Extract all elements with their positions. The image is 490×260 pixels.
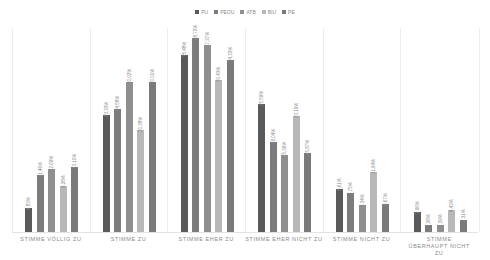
bar-pe <box>382 204 389 232</box>
data-label: 11,46% <box>38 162 43 177</box>
data-label: 2,31% <box>461 210 466 223</box>
legend-item-biu: BIU <box>262 9 276 15</box>
data-label: 4,43% <box>449 199 454 212</box>
bar-group: 23,33%24,58%30,02%20,38%30,01% <box>90 28 169 232</box>
legend-label: BIU <box>268 9 276 15</box>
bar-group: 3,96%1,38%1,39%4,43%2,31% <box>400 28 480 232</box>
data-label: 8,61% <box>337 178 342 191</box>
data-label: 35,48% <box>182 41 187 56</box>
data-label: 7,75% <box>348 182 353 195</box>
legend-label: ATB <box>246 9 255 15</box>
data-label: 13,10% <box>72 153 77 168</box>
data-label: 23,33% <box>104 102 109 117</box>
bar-biu <box>215 80 222 232</box>
bar-pu <box>103 115 110 232</box>
bar-atb <box>48 169 55 232</box>
bar-pe <box>227 60 234 232</box>
legend-item-peou: PEOU <box>214 9 234 15</box>
data-label: 18,04% <box>271 129 276 144</box>
legend-swatch <box>195 10 199 14</box>
data-label: 11,94% <box>371 159 376 174</box>
category-label: STIMME EHER ZU <box>167 236 245 243</box>
data-label: 15,87% <box>305 139 310 154</box>
bar-peou <box>347 193 354 232</box>
bar-pu <box>258 104 265 232</box>
data-label: 5,34% <box>360 195 365 208</box>
bar-atb <box>126 82 133 232</box>
bar-peou <box>192 38 199 232</box>
bar-atb <box>281 155 288 232</box>
bar-biu <box>293 116 300 232</box>
data-label: 5,67% <box>383 193 388 206</box>
legend-item-atb: ATB <box>240 9 255 15</box>
data-label: 20,38% <box>138 117 143 132</box>
data-label: 30,01% <box>150 69 155 84</box>
bar-biu <box>448 210 455 232</box>
bar-peou <box>37 175 44 232</box>
category-label: STIMME VÖLLIG ZU <box>12 236 90 243</box>
category-label: STIMME ZU <box>90 236 168 243</box>
bar-pu <box>414 212 421 232</box>
bar-pe <box>460 220 467 232</box>
bar-atb <box>359 205 366 232</box>
bar-group: 8,61%7,75%5,34%11,94%5,67% <box>323 28 402 232</box>
bar-pu <box>336 189 343 232</box>
bar-biu <box>60 186 67 232</box>
bar-group: 35,48%38,72%37,37%30,43%34,33% <box>167 28 246 232</box>
legend-label: PE <box>288 9 295 15</box>
bar-pu <box>25 208 32 232</box>
data-label: 1,39% <box>438 214 443 227</box>
bar-pe <box>149 82 156 232</box>
bar-group: 25,59%18,04%15,36%23,19%15,87% <box>245 28 324 232</box>
data-label: 15,36% <box>282 142 287 157</box>
bar-biu <box>370 172 377 232</box>
legend-swatch <box>214 10 218 14</box>
data-label: 1,38% <box>426 214 431 227</box>
bar-pe <box>71 167 78 233</box>
legend-swatch <box>282 10 286 14</box>
data-label: 30,43% <box>216 67 221 82</box>
data-label: 3,96% <box>415 201 420 214</box>
bar-atb <box>204 45 211 232</box>
legend-label: PU <box>201 9 208 15</box>
chart-legend: PUPEOUATBBIUPE <box>0 9 490 15</box>
legend-label: PEOU <box>220 9 234 15</box>
x-axis-line <box>12 232 478 233</box>
data-label: 9,28% <box>61 175 66 188</box>
bar-peou <box>270 142 277 232</box>
data-label: 30,02% <box>127 69 132 84</box>
data-label: 24,58% <box>115 96 120 111</box>
data-label: 25,59% <box>259 91 264 106</box>
data-label: 37,37% <box>205 32 210 47</box>
category-label: STIMME EHER NICHT ZU <box>245 236 323 243</box>
bar-biu <box>137 130 144 232</box>
data-label: 38,72% <box>193 25 198 40</box>
category-label: STIMME NICHT ZU <box>323 236 401 243</box>
bar-pu <box>181 55 188 232</box>
legend-swatch <box>240 10 244 14</box>
plot-area: 4,83%11,46%12,69%9,28%13,10%23,33%24,58%… <box>12 28 478 232</box>
legend-item-pu: PU <box>195 9 208 15</box>
legend-swatch <box>262 10 266 14</box>
bar-pe <box>304 153 311 232</box>
data-label: 34,33% <box>228 47 233 62</box>
bar-peou <box>114 109 121 232</box>
data-label: 4,83% <box>26 197 31 210</box>
category-label: STIMME ÜBERHAUPT NICHT ZU <box>408 236 470 257</box>
bar-group: 4,83%11,46%12,69%9,28%13,10% <box>12 28 91 232</box>
legend-item-pe: PE <box>282 9 295 15</box>
data-label: 12,69% <box>49 155 54 170</box>
data-label: 23,19% <box>294 103 299 118</box>
